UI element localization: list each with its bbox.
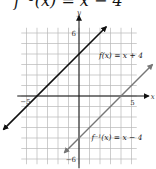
series-label-f: f(x) = x + 4: [98, 51, 143, 60]
function-graph: −5 5 6 −6 x y f(x) = x + 4 f⁻¹(x) = x − …: [0, 0, 156, 169]
y-tick-label-pos: 6: [72, 30, 77, 38]
series-line-f: [3, 27, 106, 130]
y-tick-label-neg: −6: [66, 156, 77, 164]
x-tick-label-pos: 5: [130, 99, 134, 107]
x-tick-label-neg: −5: [20, 98, 30, 106]
y-axis-label: y: [76, 9, 82, 17]
series-label-f-inverse: f⁻¹(x) = x − 4: [91, 133, 143, 142]
x-axis-label: x: [151, 93, 155, 101]
